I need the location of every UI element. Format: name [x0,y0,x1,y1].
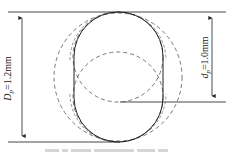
outer-diameter-value: =1.2mm [2,56,13,90]
upper-offset-dashed-arc [70,12,166,60]
solid-capsule-outline [74,12,163,142]
inner-diameter-subscript: p [204,70,212,74]
outer-diameter-symbol: D [2,93,13,100]
outer-diameter-subscript: p [7,90,15,94]
inner-diameter-symbol: d [199,74,210,79]
figure: Dp=1.2mm dp=1.0mm [0,0,234,153]
outer-diameter-label: Dp=1.2mm [2,56,15,100]
inner-diameter-value: =1.0mm [199,36,210,70]
inner-diameter-label: dp=1.0mm [199,36,212,78]
figure-caption-clipped [45,149,190,153]
lower-offset-dashed-arc [70,94,166,142]
